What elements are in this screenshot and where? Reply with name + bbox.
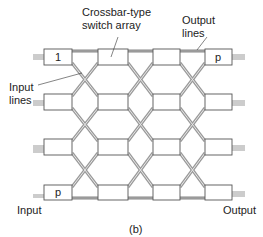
switch-r2-c1 — [44, 94, 72, 110]
waveguide-interconnects — [72, 51, 205, 198]
figure-caption: (b) — [129, 223, 142, 235]
output-lines-label-line1: Output — [182, 14, 215, 26]
switch-array — [44, 49, 232, 200]
output-lines-label-line2: lines — [182, 27, 205, 39]
switch-r2-c4 — [205, 94, 232, 110]
input-p-label: p — [55, 186, 61, 198]
switch-r1-c3 — [153, 49, 180, 65]
switch-r3-c1 — [44, 139, 72, 155]
switch-r4-c4 — [205, 185, 232, 200]
switch-r3-c2 — [98, 139, 128, 155]
output-fibers — [232, 55, 245, 196]
switch-r4-c2 — [98, 185, 128, 200]
switch-r2-c2 — [98, 94, 128, 110]
input-fibers — [33, 55, 44, 197]
switch-r2-c3 — [153, 94, 180, 110]
input-label: Input — [17, 204, 41, 216]
switch-r3-c4 — [205, 139, 232, 155]
output-p-label: p — [215, 51, 221, 63]
switch-r4-c3 — [153, 185, 180, 200]
crossbar-switch-diagram: 1 p p Crossbar-type switch array Output … — [0, 0, 263, 237]
crossbar-label-line2: switch array — [82, 19, 141, 31]
input-lines-label-line1: Input — [9, 81, 33, 93]
output-label: Output — [223, 204, 256, 216]
crossbar-label-line1: Crossbar-type — [82, 6, 151, 18]
input-lines-label-line2: lines — [9, 94, 32, 106]
switch-r3-c3 — [153, 139, 180, 155]
input-1-label: 1 — [55, 51, 61, 63]
input-lines-leader-line — [38, 73, 82, 85]
